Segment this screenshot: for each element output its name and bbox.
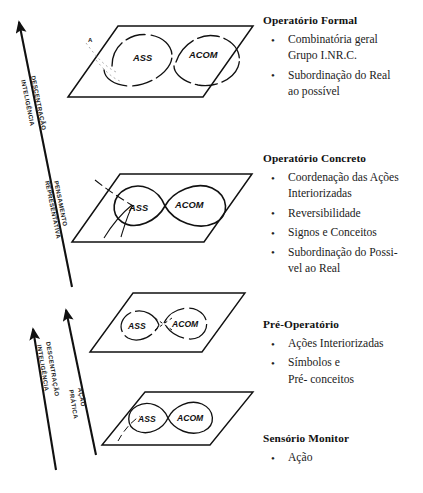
list-item: • Ações Interiorizadas <box>263 336 423 352</box>
bullet-line: Ações Interiorizadas <box>288 336 423 352</box>
plane-concreto-label-acom: ACOM <box>174 200 204 210</box>
plane-preop: ASS ACOM <box>90 293 245 352</box>
plane-formal-label-ass: ASS <box>132 53 153 63</box>
bullet-icon: • <box>271 245 275 261</box>
section-title-sensorio: Sensório Monitor <box>263 432 423 445</box>
section-title-preop: Pré-Operatório <box>263 318 423 331</box>
section-operatorio-concreto: Operatório Concreto • Coordenação das Aç… <box>263 152 423 281</box>
section-operatorio-formal: Operatório Formal • Combinatória geral G… <box>263 14 423 104</box>
bullet-line: Símbolos e <box>288 355 423 371</box>
list-item: • Símbolos e Pré- conceitos <box>263 355 423 388</box>
bullet-line: Ação <box>288 450 423 466</box>
bullet-icon: • <box>271 171 275 187</box>
plane-concreto-label-ass: ASS <box>128 203 149 213</box>
list-item: • Subordinação do Real ao possível <box>263 68 423 101</box>
plane-sensorio: ASS ACOM <box>102 392 253 445</box>
bullet-line: Interiorizadas <box>288 186 423 202</box>
bullet-icon: • <box>271 68 275 84</box>
bullet-line: Grupo I.NR.C. <box>288 48 423 64</box>
bullet-icon: • <box>271 451 275 467</box>
bullet-line: Coordenação das Ações <box>288 170 423 186</box>
section-sensorio-monitor: Sensório Monitor • Ação <box>263 432 423 469</box>
list-item: • Subordinação do Possi- vel ao Real <box>263 245 423 278</box>
plane-preop-label-acom: ACOM <box>171 319 199 329</box>
list-item: • Combinatória geral Grupo I.NR.C. <box>263 32 423 65</box>
list-item: • Signos e Conceitos <box>263 225 423 241</box>
bullet-icon: • <box>271 226 275 242</box>
plane-sensorio-label-acom: ACOM <box>176 413 204 423</box>
section-pre-operatorio: Pré-Operatório • Ações Interiorizadas • … <box>263 318 423 391</box>
plane-concreto: ASS ACOM <box>72 174 252 242</box>
list-item: • Coordenação das Ações Interiorizadas <box>263 170 423 203</box>
bullet-icon: • <box>271 206 275 222</box>
plane-formal-vertex-label: A <box>88 37 93 43</box>
bullet-line: Subordinação do Real <box>288 68 423 84</box>
bullet-icon: • <box>271 337 275 353</box>
diagram-page: A ASS ACOM ASS ACOM ASS ACOM <box>0 0 423 493</box>
list-item: • Ação <box>263 450 423 466</box>
bullet-list-concreto: • Coordenação das Ações Interiorizadas •… <box>263 170 423 278</box>
bullet-line: Signos e Conceitos <box>288 225 423 241</box>
bullet-list-preop: • Ações Interiorizadas • Símbolos e Pré-… <box>263 336 423 388</box>
bullet-line: vel ao Real <box>288 261 423 277</box>
bullet-list-sensorio: • Ação <box>263 450 423 466</box>
list-item: • Reversibilidade <box>263 206 423 222</box>
bullet-line: Pré- conceitos <box>288 372 423 388</box>
plane-preop-label-ass: ASS <box>127 321 146 331</box>
bullet-line: Combinatória geral <box>288 32 423 48</box>
section-title-concreto: Operatório Concreto <box>263 152 423 165</box>
plane-formal-label-acom: ACOM <box>188 50 218 60</box>
axis-lower-arrows <box>33 310 96 470</box>
bullet-line: Subordinação do Possi- <box>288 245 423 261</box>
plane-formal: A ASS ACOM <box>68 26 253 97</box>
section-title-formal: Operatório Formal <box>263 14 423 27</box>
bullet-list-formal: • Combinatória geral Grupo I.NR.C. • Sub… <box>263 32 423 101</box>
plane-sensorio-label-ass: ASS <box>137 414 156 424</box>
axis-upper-arrow <box>19 22 72 287</box>
bullet-icon: • <box>271 356 275 372</box>
bullet-line: Reversibilidade <box>288 206 423 222</box>
bullet-icon: • <box>271 33 275 49</box>
bullet-line: ao possível <box>288 84 423 100</box>
